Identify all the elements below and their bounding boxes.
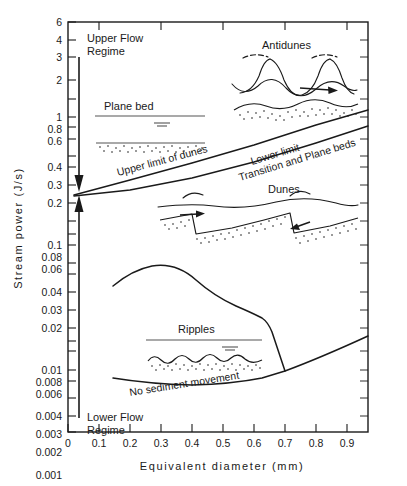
chart-svg: 6 4 3 2 1 0.8 0.6 0.4 0.3 0.2 0.1 0.08 0… — [0, 0, 407, 486]
y-tick-label: 0.06 — [42, 263, 63, 275]
y-tick-label: 4 — [56, 34, 62, 46]
dunes-label: Dunes — [268, 183, 300, 195]
y-tick-label: 1 — [56, 111, 62, 123]
ripple-bed-stipple — [151, 363, 261, 371]
y-axis-ticks — [68, 22, 76, 432]
x-tick-label: 0.1 — [92, 437, 107, 449]
y-axis-tick-labels: 6 4 3 2 1 0.8 0.6 0.4 0.3 0.2 0.1 0.08 0… — [36, 16, 62, 481]
y-tick-label: 0.004 — [36, 410, 62, 422]
y-tick-label: 3 — [56, 51, 62, 63]
y-tick-label: 2 — [56, 74, 62, 86]
x-axis-title: Equivalent diameter (mm) — [140, 460, 304, 472]
y-tick-label: 0.2 — [47, 197, 62, 209]
antidunes-sketch — [0, 0, 358, 121]
y-tick-label: 0.002 — [36, 446, 62, 458]
x-tick-label: 0.3 — [154, 437, 169, 449]
x-tick-label: 0.2 — [123, 437, 138, 449]
y-tick-label: 0.08 — [42, 251, 63, 263]
y-tick-label: 6 — [56, 16, 62, 28]
y-tick-label: 0.003 — [36, 428, 62, 440]
x-tick-label: 0.8 — [309, 437, 324, 449]
lower-flow-line1: Lower Flow — [87, 411, 143, 423]
y-tick-label: 0.001 — [36, 469, 62, 481]
upper-limit-of-dunes-label: Upper limit of dunes — [115, 142, 208, 178]
y-tick-label: 0.006 — [36, 388, 62, 400]
x-tick-label: 0.5 — [216, 437, 231, 449]
lower-limit-curve — [74, 126, 368, 196]
y-tick-label: 0.1 — [47, 239, 62, 251]
y-tick-label: 0.6 — [47, 135, 62, 147]
ripples-label: Ripples — [178, 323, 215, 335]
upper-flow-line2: Regime — [87, 45, 125, 57]
x-axis-tick-labels: 0 0.1 0.2 0.3 0.4 0.5 0.6 0.7 0.8 0.9 — [65, 437, 354, 449]
y-tick-label: 0.3 — [47, 179, 62, 191]
y-tick-label: 0.02 — [42, 322, 63, 334]
y-tick-label: 0.4 — [47, 161, 62, 173]
x-tick-label: 0 — [65, 437, 71, 449]
lower-flow-line2: Regime — [87, 424, 125, 436]
y-tick-label: 0.8 — [47, 123, 62, 135]
x-tick-label: 0.4 — [185, 437, 200, 449]
upper-limit-of-ripples-curve — [113, 265, 285, 371]
x-tick-label: 0.7 — [278, 437, 293, 449]
x-tick-label: 0.9 — [340, 437, 355, 449]
arrow-down-head — [75, 175, 84, 192]
upper-flow-regime-label: Upper Flow Regime — [87, 32, 143, 57]
y-tick-label: 0.008 — [36, 376, 62, 388]
y-tick-label: 0.01 — [42, 364, 63, 376]
x-tick-label: 0.6 — [247, 437, 262, 449]
y-tick-label: 0.04 — [42, 286, 63, 298]
y-tick-label: 0.03 — [42, 304, 63, 316]
upper-flow-line1: Upper Flow — [87, 32, 143, 44]
bedform-phase-diagram: 6 4 3 2 1 0.8 0.6 0.4 0.3 0.2 0.1 0.08 0… — [0, 0, 407, 486]
dunes-sketch — [158, 191, 358, 243]
flow-regime-arrow — [75, 57, 84, 418]
no-sediment-movement-curve — [113, 336, 368, 385]
x-axis-top-ticks — [99, 22, 347, 30]
antidunes-label: Antidunes — [262, 39, 311, 51]
y-axis-right-ticks — [360, 40, 368, 416]
y-axis-title: Stream power (J/s) — [12, 167, 24, 289]
plane-bed-label: Plane bed — [104, 100, 154, 112]
ripples-sketch — [146, 340, 262, 371]
